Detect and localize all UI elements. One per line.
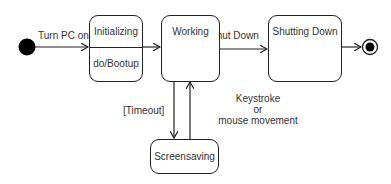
state-shutting-down: Shutting Down — [268, 15, 342, 82]
label-turn-pc-on: Turn PC on — [38, 30, 89, 41]
state-initializing: Initializing do/Bootup — [89, 15, 143, 82]
state-working: Working — [161, 15, 220, 82]
label-keystroke-line1: Keystroke — [208, 93, 308, 104]
label-keystroke-line3: mouse movement — [208, 115, 308, 126]
state-initializing-name: Initializing — [90, 26, 142, 37]
state-initializing-divider — [90, 47, 142, 48]
state-screensaving: Screensaving — [150, 139, 219, 174]
label-keystroke-or-mouse: Keystroke or mouse movement — [208, 93, 308, 126]
state-shutting-down-name: Shutting Down — [269, 26, 341, 37]
label-timeout: [Timeout] — [123, 105, 164, 116]
state-screensaving-name: Screensaving — [151, 151, 218, 162]
initial-state — [19, 39, 36, 56]
final-state-dot — [366, 43, 375, 52]
state-initializing-activity: do/Bootup — [90, 58, 142, 69]
state-working-name: Working — [162, 26, 219, 37]
label-keystroke-line2: or — [208, 104, 308, 115]
